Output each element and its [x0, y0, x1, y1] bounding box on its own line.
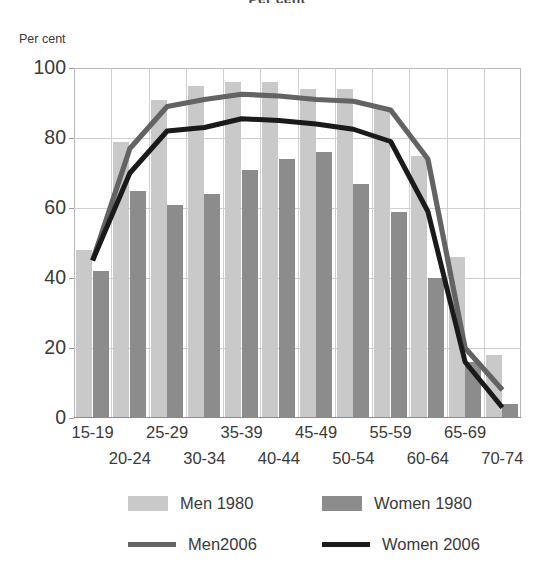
legend-item-women-1980: Women 1980 — [322, 495, 472, 512]
x-axis-tick-label-25-29: 25-29 — [127, 424, 207, 441]
legend-swatch-box-icon — [322, 496, 362, 511]
chart-legend: Men 1980Women 1980Men2006Women 2006 — [0, 495, 554, 575]
x-axis-tick-label-60-64: 60-64 — [388, 450, 468, 467]
y-axis-tick-label: 80 — [8, 128, 66, 148]
legend-item-men-1980: Men 1980 — [128, 495, 253, 512]
legend-swatch-box-icon — [128, 496, 168, 511]
legend-label: Men 1980 — [180, 495, 253, 512]
x-axis-tick-label-50-54: 50-54 — [313, 450, 393, 467]
x-axis-tick-labels: 15-1920-2425-2930-3435-3940-4445-4950-54… — [0, 424, 554, 484]
x-axis-tick-label-15-19: 15-19 — [53, 424, 133, 441]
y-axis-tick-label: 60 — [8, 198, 66, 218]
x-axis-tick-label-35-39: 35-39 — [202, 424, 282, 441]
x-axis-tick-label-40-44: 40-44 — [239, 450, 319, 467]
y-axis-tick-mark — [69, 418, 74, 419]
x-axis-tick-label-70-74: 70-74 — [462, 450, 542, 467]
plot-area — [74, 68, 521, 418]
legend-label: Women 1980 — [374, 495, 472, 512]
legend-swatch-line-icon — [128, 542, 176, 547]
y-axis-tick-label: 20 — [8, 338, 66, 358]
line-series-layer — [74, 68, 521, 418]
x-axis-tick-label-65-69: 65-69 — [425, 424, 505, 441]
x-axis-tick-label-55-59: 55-59 — [351, 424, 431, 441]
chart-figure: Per cent Per cent 020406080100 15-1920-2… — [0, 0, 554, 587]
x-axis-tick-label-20-24: 20-24 — [90, 450, 170, 467]
line-women-2006 — [93, 119, 503, 408]
y-axis-tick-label: 40 — [8, 268, 66, 288]
x-axis-baseline — [74, 417, 521, 418]
legend-label: Men2006 — [188, 536, 257, 553]
x-axis-tick-label-45-49: 45-49 — [276, 424, 356, 441]
line-men2006 — [93, 94, 503, 390]
y-axis-tick-label: 100 — [8, 58, 66, 78]
x-axis-tick-label-30-34: 30-34 — [164, 450, 244, 467]
legend-swatch-line-icon — [322, 542, 370, 547]
legend-item-men2006: Men2006 — [128, 536, 257, 553]
legend-label: Women 2006 — [382, 536, 480, 553]
legend-item-women-2006: Women 2006 — [322, 536, 480, 553]
